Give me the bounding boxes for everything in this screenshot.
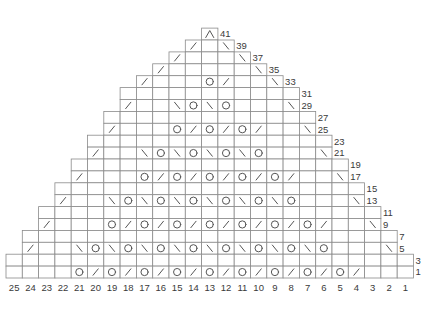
stitch-cell [283, 195, 299, 207]
stitch-cell [234, 135, 250, 147]
stitch-cell [218, 135, 234, 147]
stitch-cell [71, 207, 87, 219]
stitch-cell [299, 207, 315, 219]
row-number-label: 19 [350, 159, 361, 170]
row-number-label: 17 [350, 171, 361, 182]
stitch-cell [185, 207, 201, 219]
stitch-cell [234, 207, 250, 219]
stitch-cell [104, 171, 120, 183]
stitch-cell [218, 100, 234, 112]
stitch-cell [120, 135, 136, 147]
column-number-label: 14 [188, 282, 199, 293]
column-number-label: 1 [403, 282, 408, 293]
stitch-cell [88, 254, 104, 266]
row-number-label: 9 [383, 219, 388, 230]
stitch-cell [202, 40, 218, 52]
stitch-cell [88, 171, 104, 183]
stitch-cell [299, 266, 315, 278]
column-number-label: 8 [289, 282, 294, 293]
stitch-cell [153, 123, 169, 135]
stitch-cell [251, 159, 267, 171]
stitch-cell [316, 135, 332, 147]
stitch-cell [88, 159, 104, 171]
stitch-cell [169, 207, 185, 219]
knitting-chart: 4139373533312927252321191715131197531 25… [0, 0, 439, 310]
stitch-cell [185, 183, 201, 195]
stitch-cell [185, 242, 201, 254]
stitch-cell [218, 111, 234, 123]
stitch-cell [202, 64, 218, 76]
stitch-cell [234, 88, 250, 100]
stitch-cell [22, 230, 38, 242]
stitch-cell [234, 254, 250, 266]
stitch-cell [136, 100, 152, 112]
row-number-label: 7 [399, 231, 404, 242]
stitch-cell [120, 207, 136, 219]
column-number-label: 9 [272, 282, 277, 293]
stitch-cell [234, 111, 250, 123]
stitch-cell [218, 64, 234, 76]
row-number-label: 13 [367, 195, 378, 206]
stitch-cell [348, 230, 364, 242]
stitch-cell [185, 159, 201, 171]
row-number-label: 31 [301, 88, 312, 99]
column-number-label: 10 [253, 282, 264, 293]
stitch-cell [234, 64, 250, 76]
row-number-label: 33 [285, 76, 296, 87]
stitch-cell [267, 266, 283, 278]
stitch-cell [71, 195, 87, 207]
stitch-cell [88, 242, 104, 254]
stitch-cell [267, 207, 283, 219]
stitch-cell [283, 123, 299, 135]
stitch-cell [202, 135, 218, 147]
stitch-cell [283, 242, 299, 254]
row-number-label: 41 [220, 28, 231, 39]
column-number-label: 17 [139, 282, 150, 293]
stitch-cell [218, 254, 234, 266]
stitch-cell [218, 242, 234, 254]
stitch-cell [120, 254, 136, 266]
stitch-cell [251, 207, 267, 219]
stitch-cell [153, 242, 169, 254]
stitch-cell [169, 230, 185, 242]
stitch-cell [104, 147, 120, 159]
stitch-cell [202, 254, 218, 266]
stitch-cell [55, 254, 71, 266]
stitch-cell [55, 230, 71, 242]
stitch-cell [218, 183, 234, 195]
stitch-cell [251, 230, 267, 242]
stitch-cell [55, 207, 71, 219]
column-number-label: 22 [58, 282, 69, 293]
column-number-label: 4 [354, 282, 359, 293]
stitch-cell [6, 254, 22, 266]
stitch-cell [185, 135, 201, 147]
stitch-cell [218, 207, 234, 219]
stitch-cell [71, 266, 87, 278]
column-number-label: 5 [338, 282, 343, 293]
stitch-cell [251, 88, 267, 100]
stitch-cell [299, 159, 315, 171]
column-labels: 2524232221201918171615141312111098765432… [9, 282, 408, 293]
stitch-cell [55, 242, 71, 254]
row-number-label: 1 [416, 266, 421, 277]
column-number-label: 24 [25, 282, 36, 293]
stitch-cell [267, 219, 283, 231]
stitch-cell [267, 230, 283, 242]
column-number-label: 23 [41, 282, 52, 293]
stitch-cell [153, 111, 169, 123]
stitch-cell [136, 254, 152, 266]
stitch-cell [185, 111, 201, 123]
row-number-label: 21 [334, 147, 345, 158]
stitch-cell [169, 219, 185, 231]
stitch-cell [251, 254, 267, 266]
stitch-cell [202, 183, 218, 195]
stitch-cell [104, 207, 120, 219]
stitch-cell [185, 52, 201, 64]
stitch-cell [104, 219, 120, 231]
stitch-cell [202, 52, 218, 64]
row-number-label: 27 [318, 112, 329, 123]
stitch-cell [153, 159, 169, 171]
row-number-label: 37 [253, 52, 264, 63]
row-number-label: 25 [318, 124, 329, 135]
row-number-label: 3 [416, 255, 421, 266]
